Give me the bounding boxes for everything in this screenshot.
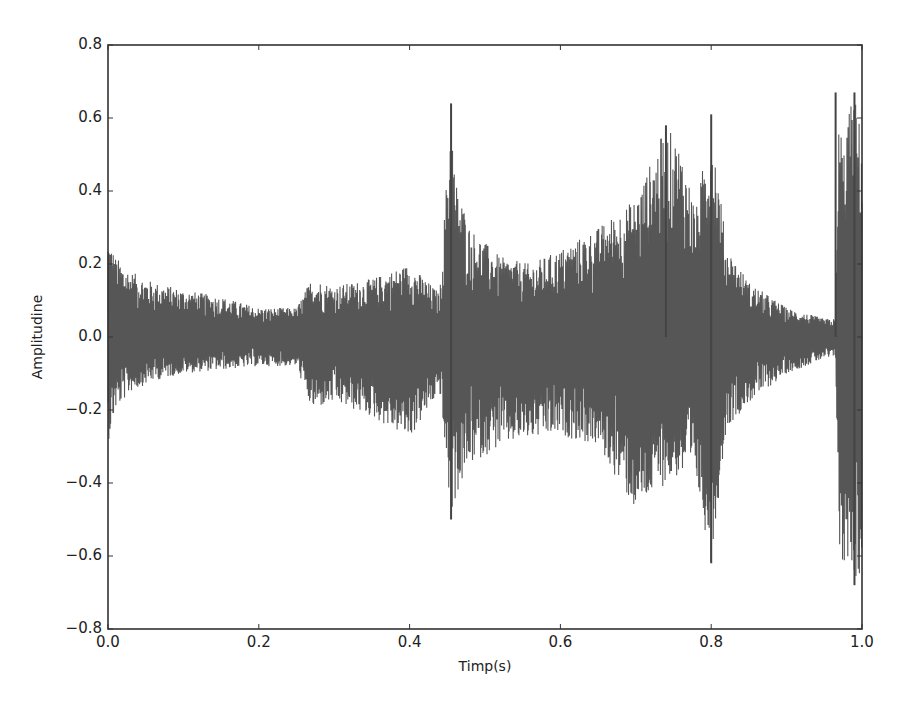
x-tick-label: 0.8: [681, 633, 741, 651]
waveform-figure: 0.80.60.40.20.0−0.2−0.4−0.6−0.8 0.00.20.…: [0, 0, 905, 706]
x-tick-label: 0.2: [229, 633, 289, 651]
y-tick-label: 0.6: [22, 108, 102, 126]
y-tick-label: 0.8: [22, 35, 102, 53]
x-tick-label: 0.6: [530, 633, 590, 651]
x-tick-label: 1.0: [832, 633, 892, 651]
y-tick-label: −0.6: [22, 546, 102, 564]
y-tick-label: 0.4: [22, 181, 102, 199]
y-tick-label: −0.2: [22, 400, 102, 418]
x-axis-label: Timp(s): [459, 658, 512, 674]
x-tick-label: 0.4: [380, 633, 440, 651]
y-tick-label: −0.4: [22, 473, 102, 491]
x-tick-label: 0.0: [78, 633, 138, 651]
y-tick-label: 0.2: [22, 254, 102, 272]
waveform-line: [108, 92, 862, 585]
plot-area: [0, 0, 905, 706]
y-axis-label: Amplitudine: [29, 295, 45, 380]
